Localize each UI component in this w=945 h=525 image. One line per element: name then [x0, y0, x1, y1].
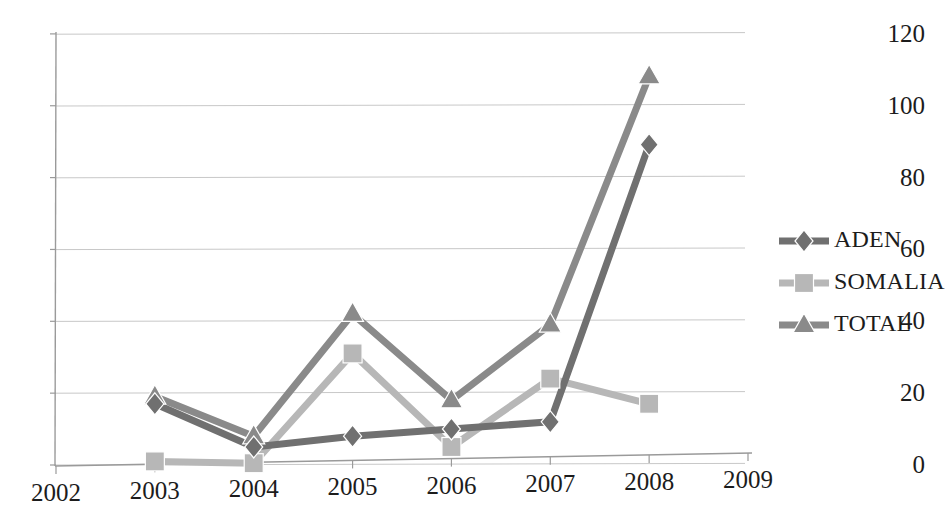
- x-axis-tick-label: 2004: [209, 476, 299, 501]
- legend-item-somalia: SOMALIA: [778, 264, 923, 306]
- gridline: [56, 320, 745, 322]
- chart-legend: ADENSOMALIATOTAL: [778, 222, 923, 348]
- data-point-total: [342, 302, 364, 321]
- x-axis-tick-label: 2005: [308, 474, 398, 499]
- x-axis-tick-label: 2003: [110, 478, 200, 503]
- legend-marker-diamond-icon: [778, 231, 830, 251]
- legend-marker-triangle-icon: [778, 315, 830, 335]
- y-axis-tick-label: 80: [881, 165, 925, 190]
- y-axis-tick-label: 20: [881, 380, 925, 405]
- y-axis-tick-label: 0: [881, 452, 925, 477]
- x-axis-tick-label: 2009: [703, 467, 793, 492]
- legend-label: SOMALIA: [834, 268, 945, 295]
- legend-label: ADEN: [834, 226, 901, 253]
- series-line-somalia: [155, 353, 649, 463]
- gridline: [56, 33, 745, 35]
- x-axis-tick-label: 2006: [406, 473, 496, 498]
- x-axis-tick-label: 2002: [11, 480, 101, 505]
- data-point-total: [638, 64, 660, 83]
- data-point-somalia: [343, 344, 362, 363]
- y-axis-tick-label: 100: [881, 93, 925, 118]
- data-point-somalia: [145, 452, 164, 471]
- legend-marker-square-icon: [778, 273, 830, 293]
- gridline: [56, 176, 745, 178]
- x-axis-tick-label: 2007: [505, 471, 595, 496]
- legend-label: TOTAL: [834, 310, 911, 337]
- legend-item-aden: ADEN: [778, 222, 923, 264]
- data-point-somalia: [640, 394, 659, 413]
- y-axis-tick-label: 120: [881, 21, 925, 46]
- data-point-aden: [344, 425, 362, 447]
- data-point-total: [539, 313, 561, 332]
- legend-item-total: TOTAL: [778, 306, 923, 348]
- gridline: [56, 248, 745, 250]
- gridline: [56, 104, 745, 106]
- x-axis-tick-label: 2008: [604, 469, 694, 494]
- series-layer: [144, 64, 660, 472]
- data-point-somalia: [541, 369, 560, 388]
